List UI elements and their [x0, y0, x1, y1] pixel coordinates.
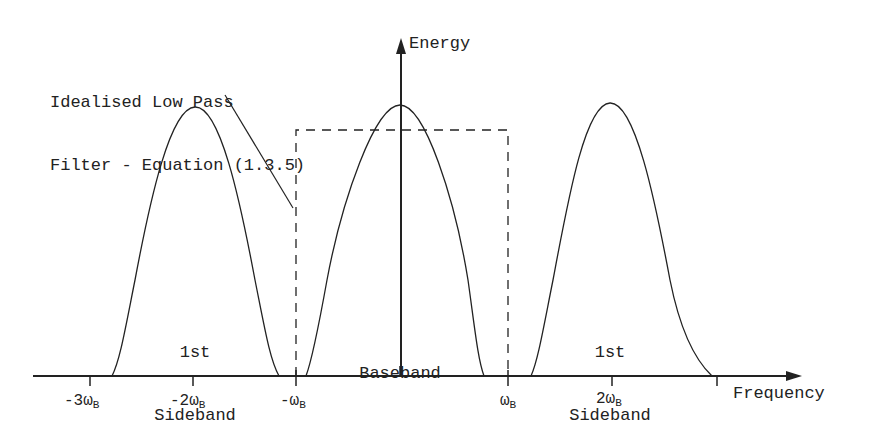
- left-sideband-label: 1st Sideband: [145, 300, 245, 431]
- tick-sub: B: [299, 399, 306, 411]
- tick-label-2wb: 2ωB: [596, 391, 622, 409]
- tick-prefix: ω: [500, 392, 510, 410]
- band-label-line1: 1st: [560, 342, 660, 363]
- tick-prefix: -ω: [280, 392, 299, 410]
- energy-axis-arrow-icon: [396, 38, 406, 54]
- tick-label-wb: ωB: [500, 393, 516, 411]
- tick-sub: B: [93, 399, 100, 411]
- energy-axis-label: Energy: [409, 33, 470, 54]
- baseband-label: Baseband: [345, 321, 455, 405]
- tick-sub: B: [510, 399, 517, 411]
- filter-annotation-line1: Idealised Low Pass: [50, 92, 305, 113]
- tick-label-negwb: -ωB: [280, 393, 306, 411]
- right-sideband-label: 1st Sideband: [560, 300, 660, 431]
- tick-prefix: -2ω: [170, 392, 199, 410]
- frequency-axis-arrow-icon: [786, 371, 802, 381]
- tick-sub: B: [199, 399, 206, 411]
- tick-label-neg3wb: -3ωB: [64, 393, 99, 411]
- tick-prefix: 2ω: [596, 390, 615, 408]
- tick-label-neg2wb: -2ωB: [170, 393, 205, 411]
- band-label-line1: 1st: [145, 342, 245, 363]
- filter-annotation-line2: Filter - Equation (1.3.5): [50, 155, 305, 176]
- tick-sub: B: [615, 397, 622, 409]
- tick-prefix: -3ω: [64, 392, 93, 410]
- band-label-line2: Baseband: [345, 363, 455, 384]
- frequency-axis-label: Frequency: [733, 383, 825, 404]
- filter-annotation: Idealised Low Pass Filter - Equation (1.…: [50, 50, 305, 197]
